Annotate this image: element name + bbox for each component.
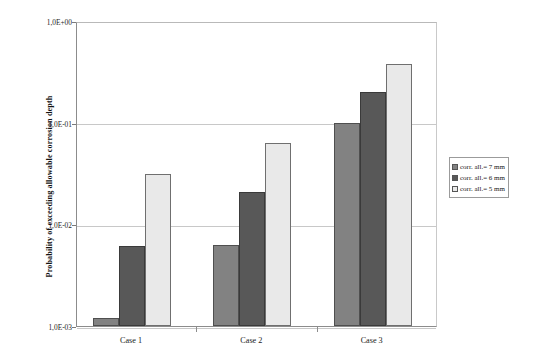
legend-item[interactable]: corr. all.= 6 mm <box>452 172 505 183</box>
x-axis-category-label: Case 2 <box>196 336 306 345</box>
legend-item-label: corr. all.= 6 mm <box>460 173 505 183</box>
y-axis-title: Probability of exceeding allowable corro… <box>45 72 54 302</box>
x-axis-category-label: Case 1 <box>76 336 186 345</box>
gridline <box>77 328 436 329</box>
legend-swatch-icon <box>452 186 458 192</box>
y-axis-tick-label: 1,0E-01 <box>12 120 72 129</box>
y-axis-tick-mark <box>72 327 76 328</box>
y-axis-tick-label: 1,0E-03 <box>12 323 72 332</box>
legend-item-label: corr. all.= 5 mm <box>460 184 505 194</box>
legend-item[interactable]: corr. all.= 7 mm <box>452 161 505 172</box>
legend-swatch-icon <box>452 175 458 181</box>
legend-swatch-icon <box>452 164 458 170</box>
plot-area <box>76 22 437 327</box>
bar <box>119 246 145 326</box>
legend-item-label: corr. all.= 7 mm <box>460 162 505 172</box>
bar <box>239 192 265 326</box>
bar <box>93 318 119 326</box>
x-axis-tick-mark <box>196 327 197 332</box>
legend-item[interactable]: corr. all.= 5 mm <box>452 183 505 194</box>
bar <box>386 64 412 326</box>
y-axis-tick-label: 1,0E+00 <box>12 18 72 27</box>
bar <box>145 174 171 326</box>
bar-chart: Probability of exceeding allowable corro… <box>0 0 538 359</box>
bar <box>360 92 386 326</box>
bar <box>213 245 239 326</box>
bar <box>265 143 291 326</box>
chart-legend: corr. all.= 7 mmcorr. all.= 6 mmcorr. al… <box>449 157 509 198</box>
x-axis-tick-mark <box>317 327 318 332</box>
x-axis-category-label: Case 3 <box>317 336 427 345</box>
bar <box>334 123 360 326</box>
y-axis-tick-label: 1,0E-02 <box>12 221 72 230</box>
